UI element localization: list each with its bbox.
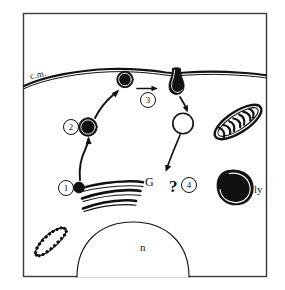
dark-vesicle-midway (79, 118, 97, 136)
lysosome (217, 170, 253, 205)
label-golgi: G (145, 176, 154, 188)
step-marker-1: 1 (58, 180, 74, 196)
dark-vesicle-membrane (117, 71, 133, 87)
step-marker-2: 2 (63, 119, 79, 135)
label-unknown-destination: ? (169, 178, 178, 195)
clear-vesicle (173, 113, 193, 133)
cell-diagram-figure: c.m. G ly n ? 1 2 3 4 (0, 0, 285, 290)
label-nucleus: n (140, 242, 146, 253)
label-lysosome: ly (254, 184, 263, 195)
step-marker-4: 4 (181, 177, 197, 193)
step-marker-3: 3 (140, 92, 156, 108)
